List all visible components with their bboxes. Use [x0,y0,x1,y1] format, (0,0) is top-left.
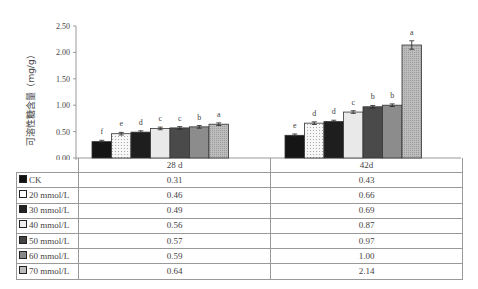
bar [170,128,190,158]
bar [344,112,364,158]
legend-swatch-icon [19,251,27,259]
table-cell: 2.14 [271,264,463,279]
table-row: 50 mmol/L0.570.97 [17,233,463,248]
bar [190,127,210,158]
series-label: 70 mmol/L [29,266,69,276]
significance-letter: a [217,110,221,119]
legend-swatch-icon [19,205,27,213]
table-row: 70 mmol/L0.642.14 [17,264,463,279]
series-label: CK [29,175,42,185]
series-label: 20 mmol/L [29,190,69,200]
bar [209,124,229,158]
bar [131,132,151,158]
table-cell: 0.69 [271,203,463,218]
series-label: 40 mmol/L [29,220,69,230]
category-header: 28 d [79,158,271,173]
category-header: 42d [271,158,463,173]
table-cell: 0.57 [79,233,271,248]
y-tick-label: 0.50 [56,128,70,137]
y-tick-label: 1.00 [56,101,70,110]
significance-letter: d [332,107,336,116]
significance-letter: c [178,114,182,123]
table-row: 40 mmol/L0.560.87 [17,218,463,233]
legend-swatch-icon [19,175,27,183]
table-cell: 0.46 [79,188,271,203]
table-cell: 0.43 [271,173,463,188]
y-tick-label: 2.00 [56,48,70,57]
table-cell: 0.31 [79,173,271,188]
table-cell: 0.87 [271,218,463,233]
y-tick-label: 1.50 [56,75,70,84]
legend-swatch-icon [19,220,27,228]
table-cell: 0.97 [271,233,463,248]
table-row: CK0.310.43 [17,173,463,188]
significance-letter: b [197,113,201,122]
y-axis-label: 可溶性糖含量（mg/g） [25,50,36,145]
bar-chart: 0.000.501.001.502.002.50 可溶性糖含量（mg/g） fe… [0,0,478,160]
significance-letter: e [293,121,297,130]
table-row: 60 mmol/L0.591.00 [17,249,463,264]
significance-letter: c [351,98,355,107]
series-label: 30 mmol/L [29,205,69,215]
significance-letter: c [158,114,162,123]
legend-swatch-icon [19,190,27,198]
legend-swatch-icon [19,266,27,274]
bar [112,134,132,158]
bar [402,45,422,158]
table-row: 30 mmol/L0.490.69 [17,203,463,218]
bar [151,128,171,158]
significance-letter: d [312,109,316,118]
bar [324,122,344,158]
significance-letter: b [390,91,394,100]
bar [92,142,112,158]
series-label: 60 mmol/L [29,251,69,261]
table-cell: 1.00 [271,249,463,264]
table-cell: 0.56 [79,218,271,233]
bar [363,107,383,158]
significance-letter: b [371,92,375,101]
table-header-row: 28 d42d [17,158,463,173]
significance-letter: d [139,118,143,127]
bar [285,135,305,158]
table-cell: 0.49 [79,203,271,218]
bar [383,105,403,158]
significance-letter: f [100,127,103,136]
significance-letter: a [410,28,414,37]
data-table: 28 d42dCK0.310.4320 mmol/L0.460.6630 mmo… [16,158,463,280]
significance-letter: e [119,119,123,128]
bars: feedddcccbbbaa [92,28,422,158]
table-cell: 0.64 [79,264,271,279]
table-cell: 0.66 [271,188,463,203]
table-row: 20 mmol/L0.460.66 [17,188,463,203]
table-cell: 0.59 [79,249,271,264]
y-tick-label: 2.50 [56,22,70,31]
legend-swatch-icon [19,236,27,244]
series-label: 50 mmol/L [29,236,69,246]
bar [305,123,325,158]
